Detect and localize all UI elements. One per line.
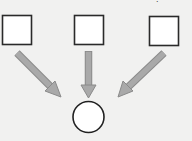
arrow-right <box>118 53 164 97</box>
arrow-middle <box>81 51 96 98</box>
target-circle <box>73 102 104 133</box>
arrow-left <box>17 53 61 97</box>
source-box-middle <box>75 16 104 45</box>
diagram-canvas: . <box>0 0 192 141</box>
source-box-left <box>3 16 32 45</box>
source-box-right <box>150 17 179 46</box>
diagram-svg <box>0 0 192 141</box>
